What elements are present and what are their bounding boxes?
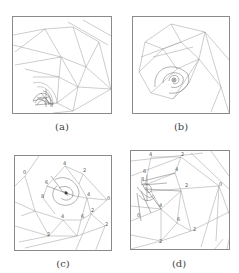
spiral-mesh-diagram-c: 4 2 6 0 8 4 2 0 2 6 4 2 [15,156,112,251]
panel-c: 4 2 6 0 8 4 2 0 2 6 4 2 [14,155,112,251]
svg-text:6: 6 [177,216,180,222]
svg-text:2: 2 [105,221,108,227]
svg-text:2: 2 [91,207,94,213]
panel-b [132,16,230,114]
svg-text:0: 0 [107,195,110,201]
spiral-mesh-diagram-b [133,17,230,114]
caption-b: (b) [166,121,196,132]
svg-text:2: 2 [185,182,188,188]
svg-text:0: 0 [23,169,26,175]
svg-text:6: 6 [45,179,48,185]
caption-d: (d) [164,258,194,269]
spiral-mesh-diagram-d: 4 2 6 0 8 4 2 0 2 6 4 2 [131,151,230,250]
spiral-mesh-diagram-a [13,17,112,114]
panel-d: 4 2 6 0 8 4 2 0 2 6 4 2 [130,150,230,250]
svg-text:4: 4 [87,191,90,197]
svg-text:4: 4 [175,166,178,172]
svg-text:2: 2 [83,167,86,173]
svg-text:2: 2 [193,226,196,232]
panel-a [12,16,112,114]
svg-text:2: 2 [181,151,184,157]
svg-text:0: 0 [219,181,222,187]
svg-text:4: 4 [159,202,162,208]
svg-text:4: 4 [149,151,152,157]
svg-text:6: 6 [81,213,84,219]
svg-text:2: 2 [159,238,162,244]
svg-text:8: 8 [41,193,44,199]
node-labels-c: 4 2 6 0 8 4 2 0 2 6 4 2 [23,160,110,237]
caption-c: (c) [48,258,78,269]
caption-a: (a) [47,121,77,132]
svg-text:8: 8 [141,176,144,182]
svg-text:4: 4 [63,160,66,166]
svg-text:0: 0 [137,212,140,218]
svg-text:6: 6 [143,168,146,174]
svg-text:4: 4 [61,213,64,219]
svg-text:2: 2 [47,231,50,237]
